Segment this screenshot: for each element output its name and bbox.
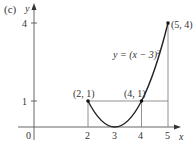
x-tick-label-3: 3: [112, 130, 117, 141]
point-label-2-1: (2, 1): [73, 88, 95, 100]
point-label-4-1: (4, 1): [124, 88, 146, 100]
equation-exponent: 2: [157, 48, 161, 56]
origin-label: 0: [26, 130, 31, 141]
parabola-curve: [88, 23, 168, 127]
panel-label: (c): [4, 3, 17, 16]
point-2-1: [86, 99, 90, 103]
equation-label: y = (x − 3)2: [112, 48, 161, 61]
y-tick-label-4: 4: [22, 18, 27, 29]
x-tick-label-2: 2: [85, 130, 90, 141]
y-tick-label-1: 1: [22, 96, 27, 107]
x-axis-arrow-icon: [174, 125, 181, 130]
equation-base: y = (x − 3): [112, 49, 158, 61]
x-tick-label-4: 4: [138, 130, 143, 141]
x-tick-label-5: 5: [165, 130, 170, 141]
y-axis-label: y: [24, 3, 30, 14]
point-label-5-4: (5, 4): [171, 19, 193, 31]
y-axis-arrow-icon: [32, 3, 37, 10]
point-4-1: [140, 99, 144, 103]
function-graph: (c) x y 4 1 0 2 3 4 5 (2, 1) (4, 1) (5, …: [0, 0, 193, 146]
point-5-4: [167, 22, 170, 25]
x-axis-label: x: [178, 131, 184, 142]
